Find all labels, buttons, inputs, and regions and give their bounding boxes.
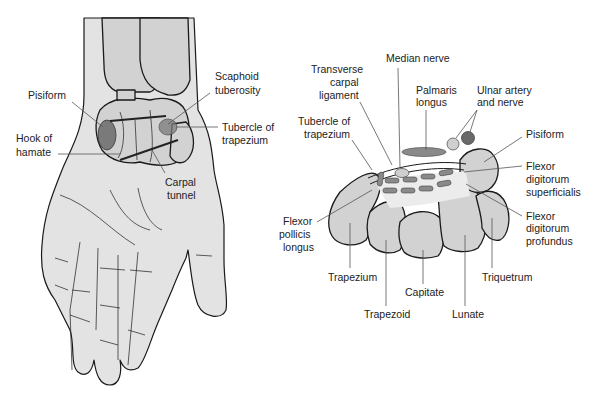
label-palmaris-2: longus [416,96,447,108]
label-carpal-tunnel-2: tunnel [167,189,196,201]
label-scaphoid-tuberosity-2: tuberosity [215,84,261,96]
label-transverse-2: carpal [330,76,359,88]
label-carpal-tunnel-1: Carpal [165,176,196,188]
label-fds-3: superficialis [526,186,581,198]
label-fpl-1: Flexor [283,215,313,227]
label-trapezium: Trapezium [328,271,377,283]
median-nerve [395,169,409,178]
label-lunate: Lunate [452,308,484,320]
label-fpl-3: longus [283,241,314,253]
label-fds-2: digitorum [526,173,569,185]
label-fds-1: Flexor [526,160,556,172]
label-fdp-1: Flexor [526,210,556,222]
label-fpl-2: pollicis [279,228,311,240]
label-median-nerve: Median nerve [386,52,450,64]
label-tubercle-trapezium-1: Tubercle of [222,121,274,133]
palmaris-longus [402,148,446,157]
label-trapezoid: Trapezoid [364,308,410,320]
label-hook-of-hamate-1: Hook of [16,132,52,144]
label-capitate: Capitate [405,286,444,298]
cross-section-illustration [329,132,509,259]
label-ulnar-2: and nerve [477,96,524,108]
scaphoid-highlight [159,119,177,135]
label-hook-of-hamate-2: hamate [16,146,51,158]
label-tubercle-1: Tubercle of [298,115,350,127]
pisiform-highlight [98,120,116,150]
label-transverse-1: Transverse [311,63,363,75]
label-pisiform-r: Pisiform [526,128,564,140]
ulnar-nerve [447,138,459,150]
label-pisiform: Pisiform [28,89,66,101]
label-triquetrum: Triquetrum [482,271,533,283]
label-fdp-3: profundus [526,235,573,247]
carpal-tunnel-diagram: Pisiform Hook of hamate Scaphoid tuberos… [0,0,593,393]
capitate-bone [399,212,444,258]
label-scaphoid-tuberosity-1: Scaphoid [215,70,259,82]
label-fdp-2: digitorum [526,222,569,234]
label-palmaris-1: Palmaris [416,84,457,96]
label-ulnar-1: Ulnar artery [477,84,533,96]
hand-illustration [42,18,227,385]
label-tubercle-2: trapezium [304,128,350,140]
label-tubercle-trapezium-2: trapezium [222,134,268,146]
ulnar-artery [462,132,475,145]
label-transverse-3: ligament [319,89,359,101]
